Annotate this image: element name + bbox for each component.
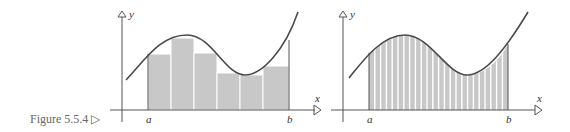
fine-rectangles bbox=[369, 30, 508, 110]
x-axis-arrow-icon bbox=[535, 105, 542, 115]
riemann-rectangle bbox=[240, 75, 263, 110]
b-label: b bbox=[506, 113, 512, 125]
x-axis-arrow-icon bbox=[314, 105, 321, 115]
y-axis-arrow-icon bbox=[118, 11, 126, 17]
coarse-rectangles bbox=[148, 38, 289, 110]
b-label: b bbox=[287, 113, 293, 125]
y-axis-arrow-icon bbox=[339, 11, 347, 17]
riemann-rectangle bbox=[263, 66, 289, 110]
riemann-rectangle bbox=[171, 38, 194, 110]
right-panel: y x a b bbox=[331, 8, 542, 125]
left-panel: y a b bbox=[110, 8, 298, 125]
riemann-sum-diagram: y a b bbox=[0, 0, 570, 132]
riemann-rectangle bbox=[217, 73, 240, 110]
riemann-rectangle bbox=[194, 53, 217, 110]
a-label: a bbox=[146, 113, 152, 125]
x-axis-label: x bbox=[536, 92, 542, 104]
x-axis-label: x bbox=[314, 92, 320, 104]
y-axis-label: y bbox=[349, 8, 355, 20]
riemann-rectangle bbox=[148, 54, 171, 110]
a-label: a bbox=[367, 113, 373, 125]
y-axis-label: y bbox=[128, 8, 134, 20]
